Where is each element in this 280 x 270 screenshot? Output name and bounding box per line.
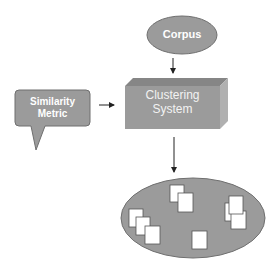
similarity-metric-line2: Metric xyxy=(15,108,90,120)
clustering-system-line1: Clustering xyxy=(125,89,220,103)
document-icon xyxy=(145,226,160,244)
clustering-system-label: Clustering System xyxy=(125,89,220,117)
corpus-label: Corpus xyxy=(147,28,217,41)
similarity-metric-line1: Similarity xyxy=(15,96,90,108)
document-icon xyxy=(229,196,243,214)
diagram-canvas xyxy=(0,0,280,270)
document-icon xyxy=(178,193,193,212)
similarity-metric-label: Similarity Metric xyxy=(15,96,90,119)
document-icon xyxy=(192,231,207,249)
clustering-system-line2: System xyxy=(125,103,220,117)
